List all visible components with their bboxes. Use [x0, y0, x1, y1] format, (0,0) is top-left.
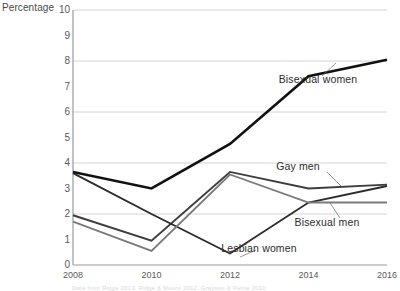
- series-label-bisexual-women: Bisexual women: [279, 73, 358, 85]
- leader-line-gay-men: [327, 172, 341, 186]
- series-line-bisexual-men: [73, 174, 387, 251]
- series-label-gay-men: Gay men: [276, 160, 320, 172]
- series-label-lesbian-women: Lesbian women: [221, 242, 297, 254]
- source-footnote: Data from Ridge 2013, Ridge & Moore 2012…: [72, 285, 266, 291]
- gridlines: [73, 10, 387, 214]
- series-label-bisexual-men: Bisexual men: [295, 216, 360, 228]
